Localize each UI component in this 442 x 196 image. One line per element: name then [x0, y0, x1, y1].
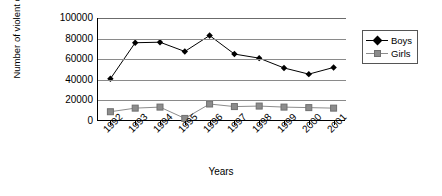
- violent-crimes-line-chart: Number of violent crimes 100000800006000…: [0, 0, 442, 196]
- data-point-girls-1999: [281, 104, 287, 110]
- legend-swatch-girls: [366, 48, 388, 60]
- y-axis-tick-label: 40000: [41, 75, 93, 85]
- y-axis-tick-label: 60000: [41, 54, 93, 64]
- series-line-boys: [110, 36, 333, 79]
- data-point-girls-1996: [207, 101, 213, 107]
- square-marker-icon: [374, 50, 381, 57]
- gridline: [98, 100, 346, 101]
- data-point-girls-1998: [256, 103, 262, 109]
- gridline: [98, 39, 346, 40]
- legend-item-boys: Boys: [366, 34, 412, 47]
- data-point-boys-1994: [157, 39, 163, 45]
- legend-swatch-boys: [366, 35, 388, 47]
- data-point-boys-1992: [107, 76, 113, 82]
- y-axis-tick-label: 0: [41, 116, 93, 126]
- diamond-marker-icon: [373, 35, 383, 45]
- x-axis-tick-labels: 1992199319941995199619971998199920002001: [97, 121, 357, 165]
- y-axis-tick-label: 20000: [41, 95, 93, 105]
- data-point-boys-1999: [281, 65, 287, 71]
- y-axis-tick-label: 100000: [41, 13, 93, 23]
- legend-label: Boys: [388, 35, 412, 47]
- y-axis-title: Number of violent crimes: [9, 0, 25, 81]
- data-point-girls-1997: [231, 104, 237, 110]
- legend-label: Girls: [388, 48, 411, 60]
- data-point-boys-1993: [132, 40, 138, 46]
- gridline: [98, 80, 346, 81]
- y-axis-tick-label: 80000: [41, 34, 93, 44]
- data-point-girls-1994: [157, 104, 163, 110]
- legend-item-girls: Girls: [366, 47, 412, 60]
- x-axis-title: Years: [97, 166, 345, 177]
- data-point-boys-2001: [330, 64, 336, 70]
- gridline: [98, 18, 346, 19]
- gridline: [98, 59, 346, 60]
- data-point-boys-2000: [306, 71, 312, 77]
- data-point-boys-1998: [256, 55, 262, 61]
- y-axis-tick-labels: 100000800006000040000200000: [38, 0, 93, 196]
- data-point-boys-1995: [182, 48, 188, 54]
- chart-legend: BoysGirls: [362, 30, 418, 64]
